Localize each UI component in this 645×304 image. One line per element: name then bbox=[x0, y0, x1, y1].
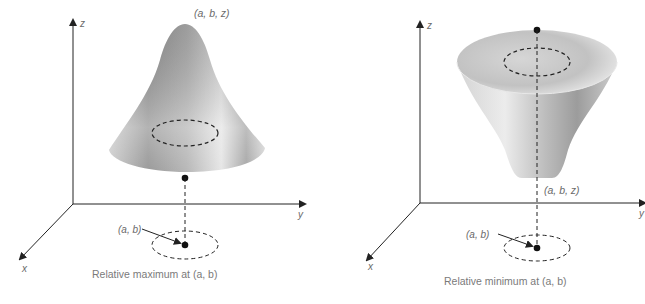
point-2d-label: (a, b) bbox=[118, 224, 141, 235]
base-point bbox=[182, 242, 189, 249]
point-2d-label: (a, b) bbox=[466, 229, 489, 240]
y-axis-label: y bbox=[297, 209, 304, 220]
diagram-canvas: z y x (a, b, z) (a, b) Relative maximum … bbox=[0, 0, 645, 304]
x-axis-label: x bbox=[21, 263, 28, 274]
caption: Relative maximum at (a, b) bbox=[92, 268, 217, 280]
x-axis-label: x bbox=[367, 261, 374, 272]
x-axis bbox=[20, 204, 73, 259]
point-3d-label: (a, b, z) bbox=[544, 184, 580, 196]
caption: Relative minimum at (a, b) bbox=[444, 275, 567, 287]
pointer-arrow bbox=[498, 234, 532, 246]
figure-relative-maximum: z y x (a, b, z) (a, b) Relative maximum … bbox=[20, 7, 305, 280]
figure-relative-minimum: z y x (a, b, z) (a, b) Relative minimum … bbox=[367, 20, 645, 287]
x-axis bbox=[367, 203, 420, 260]
pointer-arrow bbox=[142, 229, 180, 243]
base-point bbox=[534, 245, 541, 252]
y-axis-label: y bbox=[638, 208, 645, 219]
point-3d-label: (a, b, z) bbox=[194, 7, 230, 19]
z-axis-label: z bbox=[79, 18, 85, 29]
z-axis-label: z bbox=[426, 20, 432, 31]
